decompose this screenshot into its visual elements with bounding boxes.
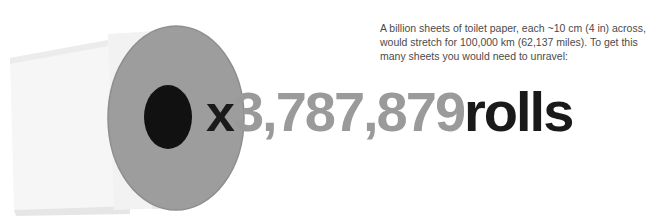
multiplier-number: 3,787,879 — [233, 80, 464, 143]
roll-core-hole — [144, 85, 192, 149]
multiplier-prefix: x — [206, 84, 233, 142]
multiplier-readout: x3,787,879rolls — [206, 84, 572, 141]
infographic-panel: A billion sheets of toilet paper, each ~… — [0, 0, 669, 222]
caption-text: A billion sheets of toilet paper, each ~… — [380, 21, 662, 63]
multiplier-unit: rolls — [464, 80, 572, 143]
